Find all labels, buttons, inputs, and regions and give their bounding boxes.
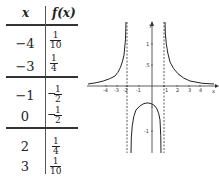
svg-text:.5: .5 bbox=[145, 62, 150, 68]
svg-text:-1: -1 bbox=[144, 128, 149, 134]
svg-text:1: 1 bbox=[146, 41, 149, 47]
svg-text:-4: -4 bbox=[103, 87, 108, 93]
function-graph: y x -4 -3 -2 -1 1 2 3 4 1 .5 -1 bbox=[0, 0, 219, 178]
svg-text:1: 1 bbox=[165, 87, 168, 93]
svg-text:-1: -1 bbox=[136, 87, 141, 93]
x-label: x bbox=[212, 88, 215, 94]
curve-left-branch bbox=[88, 22, 126, 84]
svg-text:4: 4 bbox=[199, 87, 202, 93]
svg-text:-3: -3 bbox=[114, 87, 119, 93]
y-label: y bbox=[149, 22, 152, 29]
curve-right-branch bbox=[165, 22, 214, 84]
svg-text:3: 3 bbox=[188, 87, 191, 93]
x-arrow-icon bbox=[215, 84, 219, 88]
svg-text:2: 2 bbox=[176, 87, 179, 93]
